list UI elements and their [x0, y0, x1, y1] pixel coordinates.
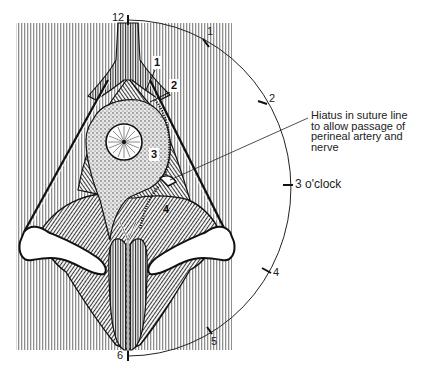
- clock-label-5: 5: [211, 336, 217, 347]
- clock-label-4: 4: [273, 267, 279, 278]
- tick-2: [258, 101, 267, 104]
- annotation-line-1: Hiatus in suture line: [311, 110, 423, 121]
- clock-label-6: 6: [117, 350, 123, 361]
- clock-label-12: 12: [112, 12, 124, 23]
- clock-label-3: 3 o'clock: [295, 179, 341, 190]
- structure-label-4: 4: [161, 203, 171, 216]
- hiatus-annotation: Hiatus in suture line to allow passage o…: [311, 110, 423, 152]
- clock-label-2: 2: [269, 93, 275, 104]
- annotation-line-3: perineal artery and: [311, 131, 423, 142]
- structure-label-2: 2: [169, 79, 179, 92]
- clock-label-1: 1: [207, 26, 213, 37]
- structure-label-1: 1: [152, 56, 162, 69]
- anatomy-illustration: [0, 0, 423, 372]
- structure-label-3: 3: [149, 148, 159, 161]
- annotation-line-4: nerve: [311, 142, 423, 153]
